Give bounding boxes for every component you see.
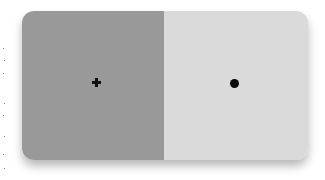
plus-icon (92, 78, 101, 87)
right-panel (164, 11, 308, 160)
speck (3, 115, 4, 116)
left-panel (22, 11, 164, 160)
speck (4, 103, 5, 104)
dot-icon (230, 79, 239, 88)
speck (3, 73, 4, 74)
speck (4, 60, 5, 61)
speck (3, 48, 4, 49)
stimulus-card (22, 11, 308, 160)
edge-specks (0, 0, 10, 180)
speck (4, 168, 5, 169)
speck (4, 136, 5, 137)
speck (3, 154, 4, 155)
